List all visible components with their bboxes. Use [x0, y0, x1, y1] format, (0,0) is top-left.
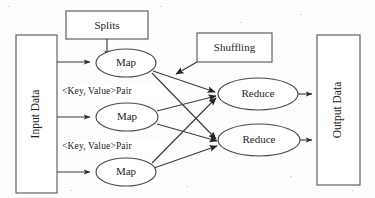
node-map-3[interactable]: Map [96, 158, 156, 186]
node-input-data[interactable]: Input Data [16, 35, 57, 193]
node-map-1[interactable]: Map [96, 49, 156, 77]
edge-shuffling-to-shuffle-region [176, 62, 197, 74]
edge-map3-to-reduce1 [152, 98, 216, 163]
node-shuffling-label: Shuffling [214, 41, 256, 53]
node-reduce-2-label: Reduce [243, 133, 276, 145]
node-map-3-label: Map [116, 165, 137, 177]
mapreduce-diagram: Input Data Splits Shuffling Output Data [0, 0, 375, 198]
node-map-1-label: Map [116, 56, 137, 68]
node-reduce-1[interactable]: Reduce [218, 78, 298, 110]
edge-label-pair-1-text: <Key, Value>Pair [62, 86, 133, 96]
node-output-data-label: Output Data [331, 82, 344, 139]
edge-map1-to-reduce2 [152, 73, 216, 139]
node-map-2-label: Map [117, 110, 138, 122]
edge-label-pair-1: <Key, Value>Pair [60, 85, 160, 98]
edge-map2-to-reduce2 [157, 124, 217, 141]
node-output-data[interactable]: Output Data [317, 35, 360, 185]
edge-label-pair-2-text: <Key, Value>Pair [62, 141, 133, 151]
node-splits[interactable]: Splits [66, 11, 148, 39]
node-input-data-label: Input Data [29, 90, 42, 139]
node-shuffling[interactable]: Shuffling [197, 33, 272, 62]
node-reduce-2[interactable]: Reduce [218, 124, 300, 156]
edge-map3-to-reduce2 [154, 146, 217, 168]
diagram-canvas: Input Data Splits Shuffling Output Data [0, 0, 375, 198]
edge-label-pair-2: <Key, Value>Pair [60, 140, 160, 153]
node-splits-label: Splits [94, 19, 119, 31]
node-map-2[interactable]: Map [96, 103, 158, 131]
edge-map1-to-reduce1 [153, 71, 215, 92]
scan-noise [8, 6, 354, 191]
node-reduce-1-label: Reduce [242, 87, 275, 99]
